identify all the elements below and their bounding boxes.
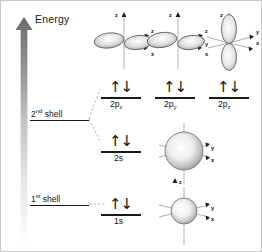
energy-level-label-2px: 2px <box>110 100 122 109</box>
orbital-energy-diagram: Energy 2nd shell 1st shell <box>0 0 262 252</box>
electron-arrows-1s: ↑↓ <box>109 197 132 212</box>
energy-axis-label: Energy <box>35 13 69 25</box>
orbital-shape-2px <box>93 9 155 71</box>
level-base-2s: 2s <box>114 153 123 163</box>
axis-tick-label-ztop-2py: z <box>169 13 172 19</box>
axis-tick-label-x-2s: x <box>211 158 214 164</box>
energy-level-label-2s: 2s <box>114 154 123 163</box>
energy-level-line-2py <box>155 97 195 99</box>
level-sub-2py: y <box>173 104 176 110</box>
electron-arrows-2pz: ↑↓ <box>217 80 240 95</box>
orbital-shape-1s <box>153 187 215 249</box>
axis-tick-label-ztop-2pz: z <box>220 13 223 19</box>
shell-label-1st-word: shell <box>40 194 60 204</box>
energy-level-label-2pz: 2pz <box>218 100 230 109</box>
orbital-shape-2s <box>153 123 215 185</box>
level-sub-2pz: z <box>227 104 230 110</box>
energy-level-label-2py: 2py <box>164 100 176 109</box>
electron-arrows-2px: ↑↓ <box>109 80 132 95</box>
electron-arrows-2py: ↑↓ <box>163 80 186 95</box>
shell-label-1st-underline <box>30 205 89 206</box>
axis-arrow-z-2s <box>171 177 181 187</box>
energy-level-line-2px <box>101 97 141 99</box>
axis-tick-label-ztop-2px: z <box>115 13 118 19</box>
shell-label-2nd-word: shell <box>42 109 62 119</box>
shell-label-2nd-underline <box>30 120 89 121</box>
level-base-1s: 1s <box>114 216 123 226</box>
energy-axis-arrow <box>15 17 33 245</box>
energy-level-line-2pz <box>209 97 249 99</box>
axis-tick-label-x-1s: x <box>211 217 214 223</box>
shell-label-2nd: 2nd shell <box>31 108 62 118</box>
axis-tick-label-x-2pz: x <box>256 41 259 47</box>
orbital-shape-2pz <box>201 9 262 71</box>
electron-arrows-2s: ↑↓ <box>109 134 132 149</box>
axis-tick-label-y-1s: y <box>211 206 214 212</box>
energy-level-label-1s: 1s <box>114 217 123 226</box>
axis-tick-label-y-2pz: y <box>256 30 259 36</box>
orbital-shape-2py <box>147 9 209 71</box>
level-sub-2px: x <box>119 104 122 110</box>
shell-label-1st: 1st shell <box>31 193 60 203</box>
axis-tick-label-y-2s: y <box>211 146 214 152</box>
